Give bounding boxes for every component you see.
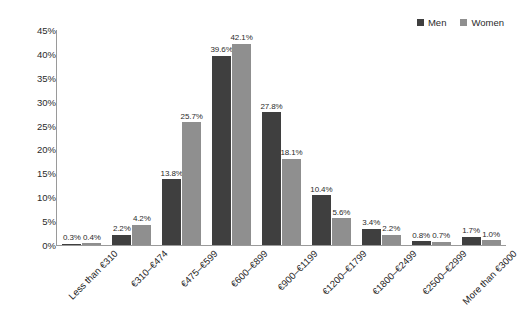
bar-women-6: [382, 235, 401, 246]
bar-value-label: 4.2%: [133, 214, 151, 223]
bar-value-label: 2.2%: [382, 224, 400, 233]
y-tick-25: 25%: [12, 120, 56, 131]
y-tick-20: 20%: [12, 144, 56, 155]
x-label-1: €310–€474: [128, 248, 169, 289]
x-label-8: More than €3000: [460, 248, 519, 307]
x-label-6: €1800–€2499: [370, 248, 419, 297]
bar-men-1: [112, 235, 131, 246]
bar-women-1: [132, 225, 151, 245]
y-tick-30: 30%: [12, 96, 56, 107]
bar-women-7: [432, 242, 451, 245]
bar-value-label: 5.6%: [332, 208, 350, 217]
bar-value-label: 2.2%: [113, 224, 131, 233]
x-label-4: €900–€1199: [275, 248, 320, 293]
y-tick-35: 35%: [12, 72, 56, 83]
bar-value-label: 39.6%: [211, 45, 233, 54]
bar-value-label: 3.4%: [362, 218, 380, 227]
bar-women-5: [332, 218, 351, 245]
x-axis-line: [56, 245, 506, 246]
bar-value-label: 13.8%: [161, 169, 183, 178]
bar-men-8: [462, 237, 481, 245]
bar-group: 27.8%18.1%: [257, 30, 307, 245]
x-label-3: €600–€899: [228, 248, 269, 289]
bar-men-5: [312, 195, 331, 245]
plot-area: 0%5%10%15%20%25%30%35%40%45% 0.3%0.4%2.2…: [0, 24, 512, 248]
bar-group: 39.6%42.1%: [207, 30, 257, 245]
bar-men-7: [412, 241, 431, 245]
bar-men-3: [212, 56, 231, 245]
bar-value-label: 27.8%: [260, 102, 282, 111]
x-label-5: €1200–€1799: [320, 248, 369, 297]
bar-value-label: 0.4%: [83, 233, 101, 242]
bar-men-0: [62, 244, 81, 245]
bar-value-label: 1.7%: [462, 226, 480, 235]
bar-group: 0.3%0.4%: [57, 30, 107, 245]
bar-group: 1.7%1.0%: [456, 30, 506, 245]
x-axis-category-labels: Less than €310€310–€474€475–€599€600–€89…: [0, 248, 512, 328]
bar-group: 10.4%5.6%: [306, 30, 356, 245]
bar-value-label: 25.7%: [181, 112, 203, 121]
bar-value-label: 42.1%: [231, 33, 253, 42]
bar-value-label: 0.3%: [63, 233, 81, 242]
y-tick-10: 10%: [12, 192, 56, 203]
bar-men-4: [262, 112, 281, 245]
bar-women-2: [182, 122, 201, 245]
bar-value-label: 1.0%: [482, 230, 500, 239]
x-label-0: Less than €310: [66, 248, 120, 302]
y-tick-45: 45%: [12, 25, 56, 36]
y-tick-5: 5%: [12, 216, 56, 227]
bar-women-4: [282, 159, 301, 245]
bar-group: 13.8%25.7%: [157, 30, 207, 245]
bar-women-8: [482, 240, 501, 245]
bar-value-label: 18.1%: [280, 148, 302, 157]
bar-value-label: 10.4%: [310, 185, 332, 194]
bar-women-3: [232, 44, 251, 245]
x-label-7: €2500–€2999: [420, 248, 469, 297]
bar-men-2: [162, 179, 181, 245]
bar-women-0: [82, 243, 101, 245]
bar-group: 2.2%4.2%: [107, 30, 157, 245]
bar-men-6: [362, 229, 381, 245]
bar-value-label: 0.7%: [432, 231, 450, 240]
y-tick-40: 40%: [12, 48, 56, 59]
bar-group: 3.4%2.2%: [356, 30, 406, 245]
bar-group: 0.8%0.7%: [406, 30, 456, 245]
x-label-2: €475–€599: [178, 248, 219, 289]
bar-value-label: 0.8%: [412, 231, 430, 240]
bar-series-container: 0.3%0.4%2.2%4.2%13.8%25.7%39.6%42.1%27.8…: [57, 30, 506, 245]
y-tick-15: 15%: [12, 168, 56, 179]
